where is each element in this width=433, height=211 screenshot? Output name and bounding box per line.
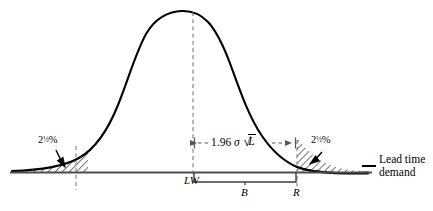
distribution-plot-svg — [0, 0, 433, 211]
bell-curve-path — [12, 11, 368, 174]
right-tail-hatch — [297, 138, 368, 172]
right-tail-percent-label: 2½% — [311, 134, 331, 146]
x-axis-label-line2: demand — [379, 166, 425, 179]
buffer-label: B — [241, 186, 248, 198]
sqrt-group: √L — [243, 135, 256, 150]
normal-distribution-figure: 2½% 2½% 1.96 σ √L LW B R Lead time deman… — [0, 0, 433, 211]
confidence-interval-label: 1.96 σ √L — [211, 135, 256, 150]
left-tail-percent-label: 2½% — [38, 134, 58, 146]
left-tail-hatch — [12, 150, 88, 172]
buffer-bracket — [194, 174, 296, 183]
right-tail-percent-sign: % — [322, 134, 331, 145]
x-axis-label-line1: Lead time — [379, 153, 425, 166]
sqrt-argument: L — [248, 134, 255, 148]
x-axis-label: Lead time demand — [379, 153, 425, 179]
interval-coefficient: 1.96 — [211, 136, 231, 148]
mean-label: LW — [184, 174, 199, 186]
reorder-point-label: R — [293, 186, 300, 198]
left-tail-percent-sign: % — [49, 134, 58, 145]
